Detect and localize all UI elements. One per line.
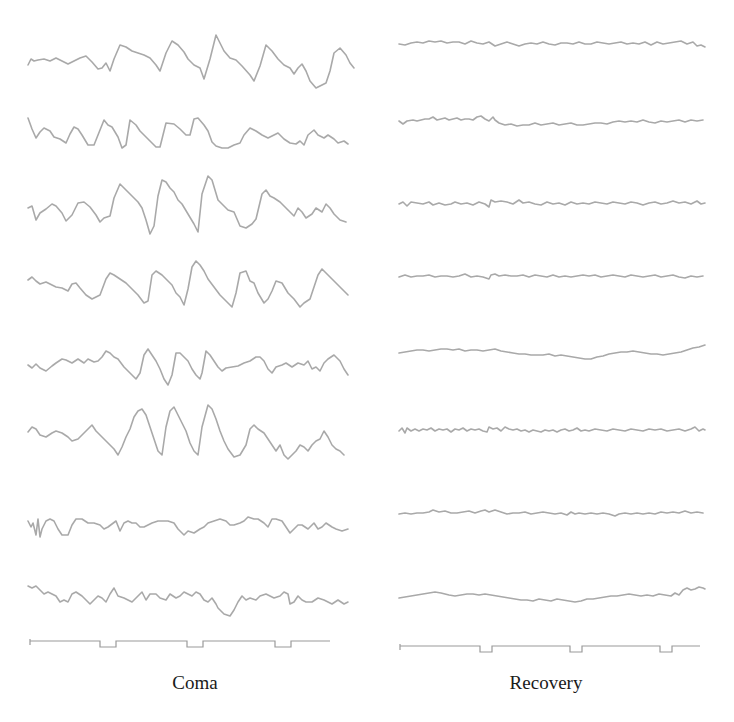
recovery-eeg-trace-channel-6	[399, 427, 705, 433]
coma-eeg-trace-channel-1	[28, 35, 354, 88]
recovery-eeg-trace-channel-4	[399, 274, 703, 279]
recovery-panel	[399, 41, 705, 652]
coma-eeg-trace-channel-5	[28, 349, 348, 385]
recovery-label: Recovery	[510, 672, 583, 694]
coma-eeg-trace-channel-7	[28, 517, 348, 537]
recovery-timing-marker-line	[400, 646, 700, 652]
coma-eeg-trace-channel-8	[28, 586, 348, 616]
coma-panel	[28, 35, 354, 647]
eeg-figure: Coma Recovery	[0, 0, 734, 722]
recovery-eeg-trace-channel-7	[399, 510, 703, 516]
coma-label: Coma	[172, 672, 217, 694]
recovery-eeg-trace-channel-5	[399, 345, 705, 359]
coma-eeg-trace-channel-6	[28, 405, 344, 459]
recovery-eeg-trace-channel-3	[399, 200, 705, 207]
recovery-eeg-trace-channel-2	[399, 116, 703, 126]
coma-eeg-trace-channel-2	[28, 118, 348, 148]
coma-timing-marker-line	[30, 641, 330, 647]
coma-eeg-trace-channel-4	[28, 261, 348, 307]
recovery-eeg-trace-channel-8	[399, 587, 705, 602]
eeg-traces-canvas	[0, 0, 734, 722]
coma-eeg-trace-channel-3	[28, 176, 346, 234]
recovery-eeg-trace-channel-1	[399, 41, 705, 47]
